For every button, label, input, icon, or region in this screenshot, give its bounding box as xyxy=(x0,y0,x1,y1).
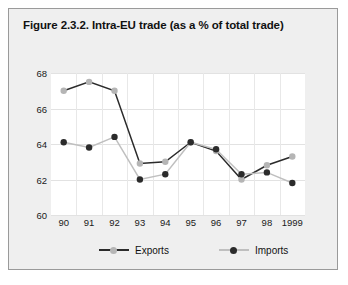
series-line-imports xyxy=(64,137,293,183)
x-axis-tick-label: 96 xyxy=(211,217,222,228)
x-axis-tick-label: 92 xyxy=(109,217,120,228)
y-axis-tick-label: 64 xyxy=(17,139,47,150)
legend-marker-dot xyxy=(110,247,117,254)
data-point-exports xyxy=(289,153,295,159)
data-point-imports xyxy=(188,139,194,145)
data-point-imports xyxy=(238,171,244,177)
x-axis: 9091929394959697981999 xyxy=(51,217,305,233)
legend-swatch-icon xyxy=(219,245,249,255)
data-point-exports xyxy=(86,79,92,85)
gridline-horizontal xyxy=(51,215,305,216)
series-line-exports xyxy=(64,82,293,180)
legend-marker-dot xyxy=(230,247,237,254)
data-point-exports xyxy=(111,88,117,94)
data-point-imports xyxy=(86,144,92,150)
data-point-imports xyxy=(289,180,295,186)
series-layer xyxy=(51,73,305,215)
data-point-exports xyxy=(137,160,143,166)
data-point-exports xyxy=(162,159,168,165)
data-point-imports xyxy=(162,171,168,177)
y-axis-tick-label: 66 xyxy=(17,103,47,114)
x-axis-tick-label: 1999 xyxy=(282,217,303,228)
x-axis-tick-label: 95 xyxy=(185,217,196,228)
y-axis-tick-label: 62 xyxy=(17,174,47,185)
data-point-imports xyxy=(111,134,117,140)
y-axis: 6866646260 xyxy=(9,73,47,215)
data-point-imports xyxy=(264,169,270,175)
figure-card: Figure 2.3.2. Intra-EU trade (as a % of … xyxy=(8,8,338,270)
data-point-imports xyxy=(137,176,143,182)
x-axis-tick-label: 91 xyxy=(84,217,95,228)
legend-item-imports[interactable]: Imports xyxy=(219,241,288,259)
x-axis-tick-label: 97 xyxy=(236,217,247,228)
x-axis-tick-label: 94 xyxy=(160,217,171,228)
chart-plot-wrapper: 6866646260 9091929394959697981999 Export… xyxy=(9,9,339,271)
legend-swatch-icon xyxy=(99,245,129,255)
legend-label: Imports xyxy=(255,245,288,256)
data-point-exports xyxy=(61,88,67,94)
legend-label: Exports xyxy=(135,245,169,256)
legend-item-exports[interactable]: Exports xyxy=(99,241,169,259)
y-axis-tick-label: 60 xyxy=(17,210,47,221)
x-axis-tick-label: 93 xyxy=(135,217,146,228)
x-axis-tick-label: 90 xyxy=(58,217,69,228)
data-point-imports xyxy=(61,139,67,145)
data-point-imports xyxy=(213,146,219,152)
chart-legend: ExportsImports xyxy=(51,241,305,259)
data-point-exports xyxy=(264,162,270,168)
y-axis-tick-label: 68 xyxy=(17,68,47,79)
x-axis-tick-label: 98 xyxy=(262,217,273,228)
